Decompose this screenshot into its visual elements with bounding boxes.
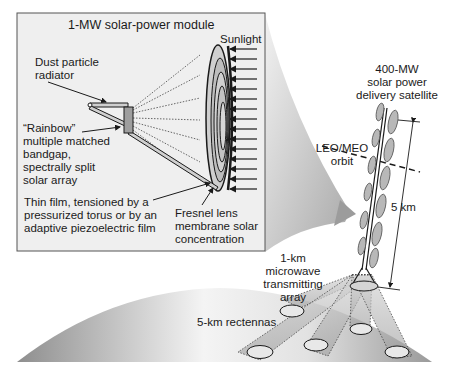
length-label: 5 km xyxy=(391,201,416,214)
dust-radiator-label: Dust particle radiator xyxy=(35,56,99,82)
orbit-label: LEO/MEO orbit xyxy=(312,142,372,168)
transmitting-array xyxy=(350,281,378,291)
thin-film-label: Thin film, tensioned by a pressurized to… xyxy=(24,196,157,235)
rainbow-solar-array xyxy=(124,107,133,133)
satellite-label: 400-MW solar power delivery satellite xyxy=(349,63,445,102)
sunlight-label: Sunlight xyxy=(220,33,262,46)
fresnel-lens-label: Fresnel lens membrane solar concentratio… xyxy=(175,207,258,246)
transmitter-label: 1-km microwave transmitting array xyxy=(258,252,328,304)
rainbow-array-label: “Rainbow” multiple matched bandgap, spec… xyxy=(23,122,110,187)
rectennas-label: 5-km rectennas xyxy=(197,316,276,329)
satellite-panels xyxy=(357,102,400,268)
inset-title: 1-MW solar-power module xyxy=(68,19,215,32)
